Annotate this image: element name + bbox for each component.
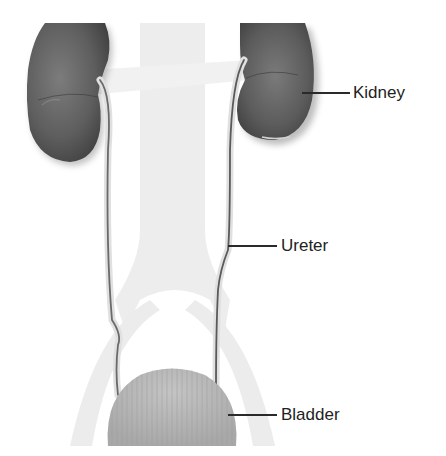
bladder-label: Bladder [281,406,340,423]
kidney-leader-line [302,92,350,94]
right-kidney [237,23,319,145]
kidney-label: Kidney [353,84,405,101]
bladder-leader-line [228,414,277,416]
left-kidney [27,23,113,166]
ureter-label: Ureter [281,237,328,254]
ureter-leader-line [228,245,277,247]
urinary-system-illustration [0,0,446,456]
